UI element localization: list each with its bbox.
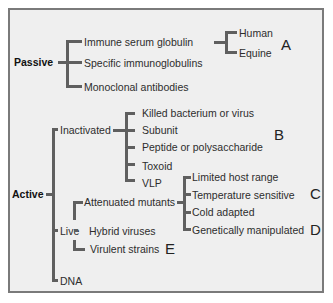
inactivated-label: Inactivated bbox=[60, 124, 111, 136]
live-connector bbox=[74, 229, 78, 232]
active-tick bbox=[52, 229, 58, 232]
passive-tick bbox=[66, 40, 82, 43]
live-tick bbox=[73, 201, 83, 204]
isg-tick bbox=[225, 31, 237, 34]
inactivated-tick bbox=[125, 179, 135, 182]
immune-serum-globulin: Immune serum globulin bbox=[84, 36, 193, 48]
passive-tick bbox=[66, 61, 82, 64]
active-label: Active bbox=[12, 188, 44, 200]
marker-c: C bbox=[310, 186, 321, 202]
hybrid-viruses: Hybrid viruses bbox=[89, 225, 156, 237]
active-tick bbox=[52, 279, 58, 282]
inactivated-tick bbox=[125, 146, 135, 149]
toxoid: Toxoid bbox=[142, 160, 172, 172]
vlp: VLP bbox=[142, 177, 162, 189]
specific-immunoglobulins: Specific immunoglobulins bbox=[84, 57, 202, 69]
attenuated-tick bbox=[183, 193, 191, 196]
subunit: Subunit bbox=[142, 124, 178, 136]
human: Human bbox=[239, 27, 273, 39]
inactivated-tick bbox=[125, 129, 135, 132]
cold-adapted: Cold adapted bbox=[192, 206, 254, 218]
equine: Equine bbox=[239, 47, 272, 59]
attenuated-tick bbox=[183, 176, 191, 179]
marker-d: D bbox=[310, 222, 321, 238]
live-tick bbox=[73, 248, 85, 251]
passive-tick bbox=[66, 85, 82, 88]
virulent-strains: Virulent strains bbox=[90, 243, 159, 255]
killed-bacterium-or-virus: Killed bacterium or virus bbox=[142, 107, 254, 119]
genetically-manipulated: Genetically manipulated bbox=[192, 224, 304, 236]
marker-a: A bbox=[281, 37, 291, 53]
passive-label: Passive bbox=[14, 56, 53, 68]
peptide-or-polysaccharide: Peptide or polysaccharide bbox=[142, 141, 263, 153]
isg-tick bbox=[225, 51, 237, 54]
active-bracket bbox=[52, 128, 55, 282]
active-tick bbox=[52, 128, 58, 131]
attenuated-tick bbox=[183, 228, 191, 231]
attenuated-tick bbox=[183, 211, 191, 214]
temperature-sensitive: Temperature sensitive bbox=[192, 189, 295, 201]
limited-host-range: Limited host range bbox=[192, 171, 278, 183]
inactivated-tick bbox=[125, 163, 135, 166]
dna-label: DNA bbox=[60, 275, 82, 287]
monoclonal-antibodies: Monoclonal antibodies bbox=[84, 81, 189, 93]
attenuated-mutants: Attenuated mutants bbox=[84, 196, 175, 208]
attenuated-bracket bbox=[183, 176, 186, 231]
marker-e: E bbox=[165, 241, 175, 257]
inactivated-tick bbox=[125, 112, 135, 115]
marker-b: B bbox=[274, 127, 284, 143]
